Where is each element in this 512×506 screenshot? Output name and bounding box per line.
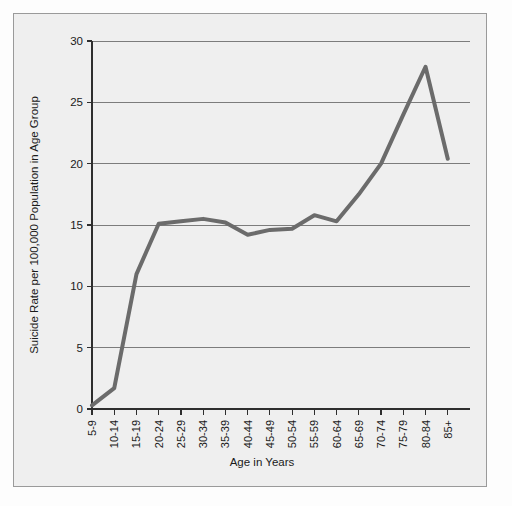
x-tick-label: 35-39 bbox=[219, 420, 231, 448]
x-tick-label: 55-59 bbox=[308, 420, 320, 448]
x-tick-label: 80-84 bbox=[420, 420, 432, 448]
y-tick-label: 25 bbox=[70, 96, 83, 108]
x-tick-label: 45-49 bbox=[264, 420, 276, 448]
line-chart: 051015202530 5-910-1415-1920-2425-2930-3… bbox=[0, 0, 512, 506]
x-tick-label: 40-44 bbox=[242, 420, 254, 448]
x-tick-label: 25-29 bbox=[175, 420, 187, 448]
x-axis-ticks-group: 5-910-1415-1920-2425-2930-3435-3940-4445… bbox=[86, 409, 454, 448]
x-tick-label: 70-74 bbox=[375, 420, 387, 448]
x-tick-label: 15-19 bbox=[130, 420, 142, 448]
x-tick-label: 30-34 bbox=[197, 420, 209, 448]
y-axis-title: Suicide Rate per 100,000 Population in A… bbox=[28, 96, 40, 354]
y-tick-label: 15 bbox=[70, 219, 83, 231]
y-axis-ticks-group: 051015202530 bbox=[70, 35, 92, 415]
chart-figure: 051015202530 5-910-1415-1920-2425-2930-3… bbox=[0, 0, 512, 506]
y-tick-label: 10 bbox=[70, 280, 83, 292]
x-tick-label: 5-9 bbox=[86, 420, 98, 436]
x-tick-label: 75-79 bbox=[397, 420, 409, 448]
x-tick-label: 60-64 bbox=[331, 420, 343, 448]
x-tick-label: 50-54 bbox=[286, 420, 298, 448]
y-tick-label: 0 bbox=[77, 403, 83, 415]
x-axis-title: Age in Years bbox=[230, 456, 295, 468]
y-tick-label: 5 bbox=[77, 342, 83, 354]
x-tick-label: 20-24 bbox=[153, 420, 165, 448]
x-tick-label: 65-69 bbox=[353, 420, 365, 448]
y-tick-label: 30 bbox=[70, 35, 83, 47]
x-tick-label: 10-14 bbox=[108, 420, 120, 448]
x-tick-label: 85+ bbox=[442, 420, 454, 439]
y-tick-label: 20 bbox=[70, 158, 83, 170]
